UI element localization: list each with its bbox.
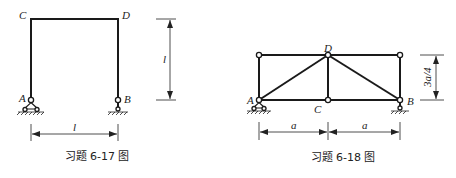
label-a: A [246, 94, 254, 106]
diagram-canvas: C D A B l l 习题 6-17 图 [0, 0, 456, 178]
caption-6-18: 习题 6-18 图 [311, 151, 376, 164]
figure-6-18: D A C B 3a/4 a a 习题 6-18 图 [246, 42, 444, 164]
label-d: D [121, 9, 130, 21]
frame-members [31, 19, 118, 100]
dimension-span-label: l [73, 121, 76, 133]
dimension-height: 3a/4 [420, 55, 444, 100]
dimension-span-left-label: a [291, 119, 297, 131]
dimension-span: a a [259, 119, 400, 140]
label-a: A [18, 92, 26, 104]
dimension-span: l [31, 121, 118, 141]
dimension-height-label: l [163, 53, 166, 65]
dimension-span-right-label: a [362, 119, 368, 131]
label-b: B [124, 93, 131, 105]
dimension-height: l [156, 19, 176, 100]
figure-6-17: C D A B l l 习题 6-17 图 [17, 9, 176, 163]
truss-nodes [256, 52, 402, 102]
label-d: D [323, 42, 332, 54]
caption-6-17: 习题 6-17 图 [65, 150, 130, 163]
label-c: C [19, 9, 27, 21]
truss-members [259, 55, 400, 100]
label-c: C [314, 103, 322, 115]
dimension-height-label: 3a/4 [421, 67, 433, 88]
label-b: B [407, 95, 414, 107]
